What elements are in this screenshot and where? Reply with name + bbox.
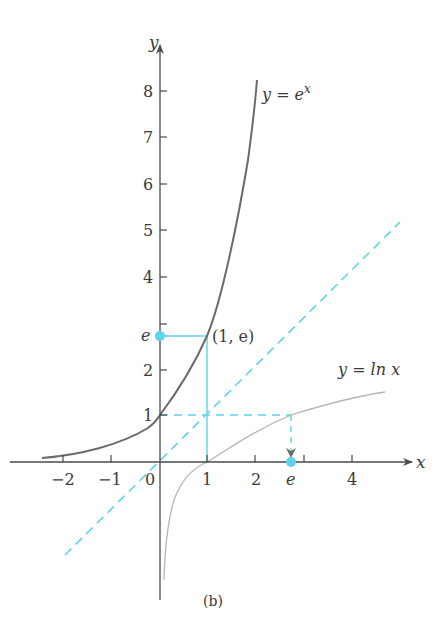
x-tick-label: 2	[251, 470, 261, 489]
y-ticks	[160, 91, 167, 415]
x-ticks	[63, 455, 352, 462]
y-tick-label: 7	[143, 128, 153, 147]
y-tick-label: 4	[143, 268, 153, 287]
figure: y x −2 −1 0 1 2 e 4 1 2 e 4 5 6 7 8 y = …	[0, 0, 441, 623]
x-tick-label: −1	[98, 470, 122, 489]
point-label: (1, e)	[212, 327, 254, 346]
y-tick-label: 8	[143, 82, 153, 101]
figure-caption: (b)	[203, 593, 223, 609]
exp-label-sup: x	[304, 82, 311, 96]
y-tick-label: 1	[143, 406, 153, 425]
y-tick-label-e: e	[141, 326, 150, 345]
y-tick-label: 2	[143, 361, 153, 380]
x-tick-label: 0	[145, 470, 155, 489]
x-tick-label-e: e	[286, 470, 295, 489]
exp-label-base: y = e	[261, 85, 304, 104]
e-point-x-axis	[286, 457, 296, 467]
chart-svg: y x −2 −1 0 1 2 e 4 1 2 e 4 5 6 7 8 y = …	[0, 0, 441, 623]
identity-line	[65, 222, 400, 555]
y-tick-label: 5	[143, 221, 153, 240]
x-tick-label: 4	[347, 470, 357, 489]
x-tick-label: −2	[51, 470, 75, 489]
e-point-y-axis	[155, 331, 165, 341]
y-tick-label: 6	[143, 175, 153, 194]
y-axis-label: y	[148, 32, 159, 52]
x-axis-label: x	[416, 452, 426, 472]
exp-curve-label: y = ex	[261, 82, 311, 104]
ln-curve-label: y = ln x	[337, 360, 400, 379]
x-tick-label: 1	[202, 470, 212, 489]
